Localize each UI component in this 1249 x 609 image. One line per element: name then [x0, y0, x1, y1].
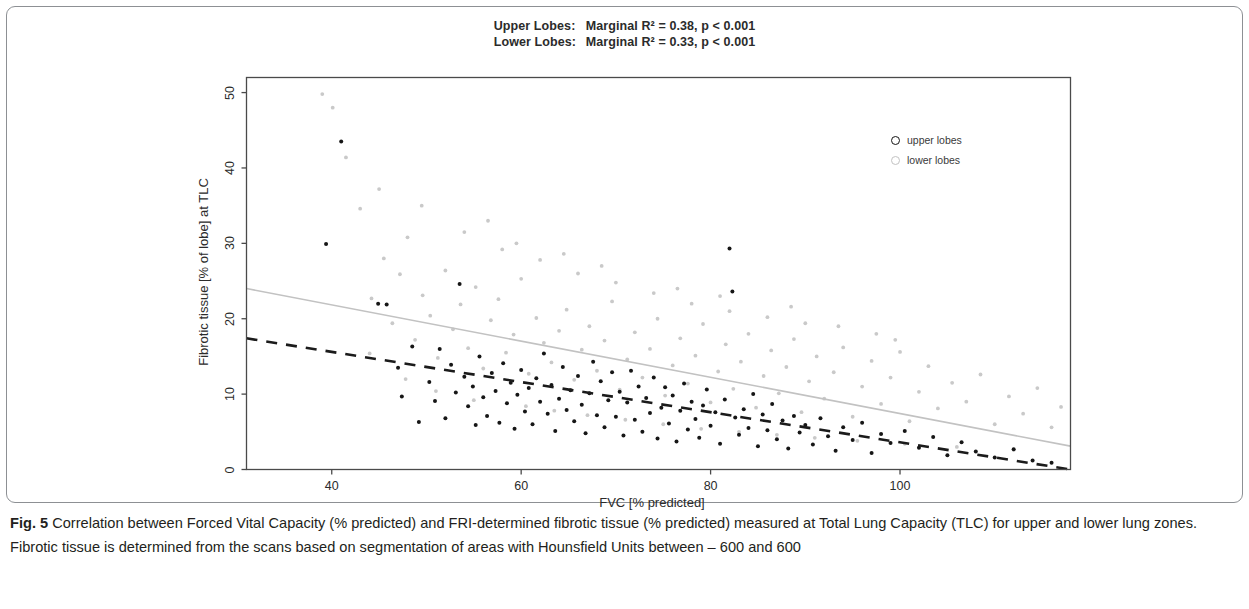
data-point: [730, 290, 734, 294]
data-point: [733, 415, 737, 419]
data-point: [505, 401, 509, 405]
axis-tick-marks: [242, 93, 901, 475]
data-point: [792, 337, 796, 341]
data-point: [728, 309, 732, 313]
data-point: [538, 400, 542, 404]
data-point: [841, 345, 845, 349]
data-point: [417, 420, 421, 424]
data-point: [851, 415, 855, 419]
data-point: [709, 401, 713, 405]
data-point: [398, 272, 402, 276]
data-point: [716, 370, 720, 374]
data-point: [434, 389, 438, 393]
data-point: [917, 390, 921, 394]
data-point: [474, 285, 478, 289]
data-point: [879, 432, 883, 436]
data-point: [775, 433, 779, 437]
data-point: [648, 411, 652, 415]
data-point: [377, 187, 381, 191]
upper-lobes-trendline: [247, 338, 1071, 469]
data-point: [527, 372, 531, 376]
y-axis-title: Fibrotic tissue [% of lobe] at TLC: [196, 178, 211, 366]
data-point: [501, 361, 505, 365]
data-point: [428, 314, 432, 318]
data-point: [466, 404, 470, 408]
data-point: [682, 382, 686, 386]
data-point: [459, 303, 463, 307]
y-tick-label-10: 10: [223, 387, 237, 401]
data-point: [979, 373, 983, 377]
data-point: [494, 389, 498, 393]
data-point: [737, 433, 741, 437]
data-point: [874, 332, 878, 336]
data-point: [552, 409, 556, 413]
data-point: [656, 437, 660, 441]
plot-canvas: [7, 7, 1244, 504]
legend-label-lower: lower lobes: [907, 150, 960, 170]
data-point: [644, 396, 648, 400]
data-point: [382, 257, 386, 261]
data-point: [614, 281, 618, 285]
data-point: [800, 410, 804, 414]
data-point: [974, 449, 978, 453]
data-point: [1012, 447, 1016, 451]
data-point: [472, 398, 476, 402]
data-point: [633, 418, 637, 422]
data-point: [747, 332, 751, 336]
x-tick-label-100: 100: [890, 479, 911, 493]
data-point: [766, 315, 770, 319]
data-point: [993, 455, 997, 459]
data-point: [420, 204, 424, 208]
data-point: [606, 398, 610, 402]
data-point: [512, 333, 516, 337]
data-point: [586, 413, 590, 417]
data-point: [557, 329, 561, 333]
data-point: [781, 419, 785, 423]
data-point: [671, 364, 675, 368]
x-tick-label-60: 60: [514, 479, 528, 493]
data-point: [663, 385, 667, 389]
data-point: [515, 241, 519, 245]
data-point: [652, 376, 656, 380]
data-point: [565, 408, 569, 412]
data-point: [648, 347, 652, 351]
data-point: [818, 416, 822, 420]
data-point: [718, 442, 722, 446]
x-tick-label-80: 80: [704, 479, 718, 493]
data-point: [406, 235, 410, 239]
data-point: [621, 434, 625, 438]
data-point: [898, 350, 902, 354]
data-point: [370, 296, 374, 300]
data-point: [798, 431, 802, 435]
data-point: [497, 297, 501, 301]
upper-lobes-point-group: [324, 140, 1054, 465]
data-point: [786, 446, 790, 450]
data-point: [834, 449, 838, 453]
data-point: [690, 400, 694, 404]
data-point: [527, 386, 531, 390]
data-point: [762, 374, 766, 378]
data-point: [1050, 461, 1054, 465]
data-point: [534, 316, 538, 320]
y-tick-label-40: 40: [223, 161, 237, 175]
data-point: [458, 282, 462, 286]
data-point: [519, 277, 523, 281]
data-point: [331, 106, 335, 110]
data-point: [993, 422, 997, 426]
data-point: [870, 451, 874, 455]
data-point: [756, 444, 760, 448]
data-point: [964, 400, 968, 404]
data-point: [676, 287, 680, 291]
data-point: [950, 381, 954, 385]
data-point: [433, 399, 437, 403]
data-point: [449, 363, 453, 367]
data-point: [656, 317, 660, 321]
data-point: [718, 294, 722, 298]
data-point: [792, 414, 796, 418]
data-point: [931, 435, 935, 439]
data-point: [709, 424, 713, 428]
data-point: [523, 409, 527, 413]
data-point: [770, 402, 774, 406]
data-point: [438, 347, 442, 351]
data-point: [705, 388, 709, 392]
